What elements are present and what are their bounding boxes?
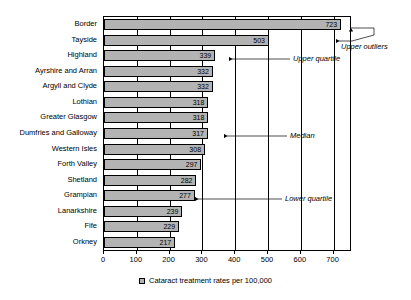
- bar-value-label: 332: [197, 67, 209, 76]
- x-tick: [267, 251, 268, 254]
- x-tick: [136, 251, 137, 254]
- category-label: Border: [0, 18, 100, 29]
- bar-value-label: 239: [167, 207, 179, 216]
- category-label: Fife: [0, 220, 100, 231]
- x-tick: [300, 251, 301, 254]
- category-label: Grampian: [0, 189, 100, 200]
- legend: Cataract treatment rates per 100,000: [0, 276, 411, 286]
- annotation-upper-quartile: Upper quartile: [293, 54, 340, 64]
- bar-row: 217: [104, 237, 350, 248]
- bar-row: 723: [104, 19, 350, 30]
- category-label: Tayside: [0, 34, 100, 45]
- category-label: Argyll and Clyde: [0, 80, 100, 91]
- x-tick-label: 200: [162, 255, 175, 265]
- x-tick: [234, 251, 235, 254]
- bar-row: 282: [104, 175, 350, 186]
- x-tick-label: 300: [195, 255, 208, 265]
- bar-row: 297: [104, 159, 350, 170]
- x-tick-label: 500: [261, 255, 274, 265]
- x-tick-label: 600: [294, 255, 307, 265]
- bar-value-label: 723: [325, 20, 337, 29]
- bar-row: 332: [104, 66, 350, 77]
- legend-swatch-icon: [139, 278, 145, 284]
- category-label: Western Isles: [0, 143, 100, 154]
- category-label: Dumfries and Galloway: [0, 127, 100, 138]
- bar-value-label: 317: [192, 129, 204, 138]
- bar-border: [104, 19, 341, 30]
- bar-value-label: 308: [189, 145, 201, 154]
- x-tick: [201, 251, 202, 254]
- category-label: Forth Valley: [0, 158, 100, 169]
- bar-value-label: 332: [197, 82, 209, 91]
- x-tick-label: 100: [130, 255, 143, 265]
- bar-row: 503: [104, 35, 350, 46]
- x-tick-label: 0: [101, 255, 105, 265]
- bar-value-label: 339: [200, 51, 212, 60]
- x-tick-label: 700: [326, 255, 339, 265]
- annotation-median: Median: [290, 131, 315, 141]
- bar-highland: [104, 50, 215, 61]
- x-tick: [169, 251, 170, 254]
- bar-row: 318: [104, 112, 350, 123]
- bar-row: 229: [104, 221, 350, 232]
- bar-value-label: 297: [186, 160, 198, 169]
- category-label: Ayrshire and Arran: [0, 65, 100, 76]
- bar-value-label: 318: [193, 98, 205, 107]
- x-axis: 0100200300400500600700: [103, 251, 351, 267]
- x-tick: [333, 251, 334, 254]
- bar-row: 318: [104, 97, 350, 108]
- bar-value-label: 318: [193, 113, 205, 122]
- bar-row: 308: [104, 144, 350, 155]
- bar-value-label: 229: [163, 222, 175, 231]
- category-label: Lanarkshire: [0, 205, 100, 216]
- category-label: Highland: [0, 49, 100, 60]
- cataract-rates-bar-chart: BorderTaysideHighlandAyrshire and ArranA…: [0, 0, 411, 300]
- category-axis-labels: BorderTaysideHighlandAyrshire and ArranA…: [0, 16, 100, 251]
- legend-label: Cataract treatment rates per 100,000: [149, 276, 272, 285]
- bar-value-label: 277: [179, 191, 191, 200]
- bar-value-label: 217: [160, 238, 172, 247]
- category-label: Shetland: [0, 174, 100, 185]
- category-label: Greater Glasgow: [0, 111, 100, 122]
- category-label: Orkney: [0, 236, 100, 247]
- annotation-lower-quartile: Lower quartile: [285, 194, 332, 204]
- x-tick: [103, 251, 104, 254]
- annotation-upper-outliers: Upper outliers: [341, 42, 388, 52]
- bar-row: 239: [104, 206, 350, 217]
- category-label: Lothian: [0, 96, 100, 107]
- bar-value-label: 503: [253, 36, 265, 45]
- bar-tayside: [104, 35, 269, 46]
- bar-row: 332: [104, 81, 350, 92]
- bar-value-label: 282: [181, 176, 193, 185]
- x-tick-label: 400: [228, 255, 241, 265]
